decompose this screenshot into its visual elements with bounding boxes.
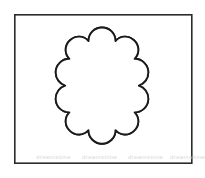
scalloped-flower-outline-overstroke: [56, 28, 149, 144]
watermark-text-2: dreamstime: [128, 154, 164, 160]
watermark-text-1: dreamstime: [82, 154, 118, 160]
line-art-illustration: dreamstimedreamstimedreamstimedreamstime: [0, 0, 205, 178]
watermark-text-0: dreamstime: [36, 154, 72, 160]
watermark-text-3: dreamstime: [170, 154, 205, 160]
drawing-canvas: dreamstimedreamstimedreamstimedreamstime: [0, 0, 205, 178]
